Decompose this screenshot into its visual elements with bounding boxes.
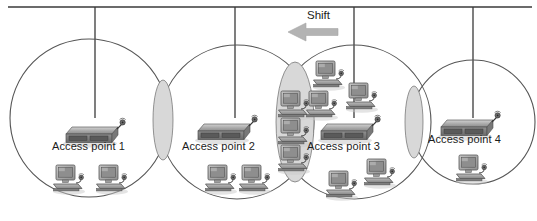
diagram-canvas (0, 0, 537, 221)
client-workstation[interactable] (239, 165, 271, 195)
access-point-label-4: Access point 4 (428, 133, 501, 145)
client-workstation[interactable] (53, 165, 85, 195)
overlap-region-1-2 (153, 80, 173, 160)
clients-cell-2 (205, 165, 271, 195)
shift-arrow-icon (288, 23, 338, 41)
client-workstation[interactable] (456, 155, 488, 185)
wireless-coverage-diagram: Shift Access point 1 Access point 2 Acce… (0, 0, 537, 221)
wired-backbone (8, 7, 532, 118)
client-workstation[interactable] (346, 83, 378, 113)
client-workstation[interactable] (364, 159, 396, 189)
overlap-region-3-4 (405, 86, 423, 158)
client-workstation[interactable] (306, 91, 338, 121)
client-workstation[interactable] (205, 165, 237, 195)
clients-cell-4 (456, 155, 488, 185)
access-point-label-3: Access point 3 (307, 140, 380, 152)
coverage-cells (10, 39, 535, 199)
clients-cell-1 (53, 165, 128, 195)
access-point-label-2: Access point 2 (182, 140, 255, 152)
coverage-circle-1 (10, 39, 168, 197)
access-point-label-1: Access point 1 (52, 140, 125, 152)
client-workstation[interactable] (326, 171, 358, 201)
client-workstation[interactable] (96, 165, 128, 195)
client-workstation[interactable] (313, 61, 345, 91)
shift-label: Shift (307, 9, 330, 21)
